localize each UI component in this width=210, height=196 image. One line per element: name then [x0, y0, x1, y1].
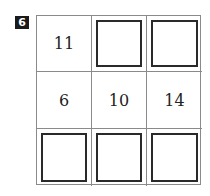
cell-r3-c2 [92, 129, 147, 186]
answer-box[interactable] [41, 133, 87, 182]
cell-r2-c3: 14 [147, 72, 202, 129]
number-grid: 11 6 10 14 [36, 15, 201, 185]
cell-r2-c1: 6 [37, 72, 92, 129]
cell-r1-c1: 11 [37, 16, 92, 72]
answer-box[interactable] [96, 20, 142, 67]
problem-number-badge: 6 [15, 16, 29, 29]
answer-box[interactable] [96, 133, 142, 182]
answer-box[interactable] [151, 20, 198, 67]
cell-r3-c1 [37, 129, 92, 186]
cell-r1-c2 [92, 16, 147, 72]
cell-r2-c2: 10 [92, 72, 147, 129]
answer-box[interactable] [151, 133, 198, 182]
cell-r3-c3 [147, 129, 202, 186]
cell-r1-c3 [147, 16, 202, 72]
